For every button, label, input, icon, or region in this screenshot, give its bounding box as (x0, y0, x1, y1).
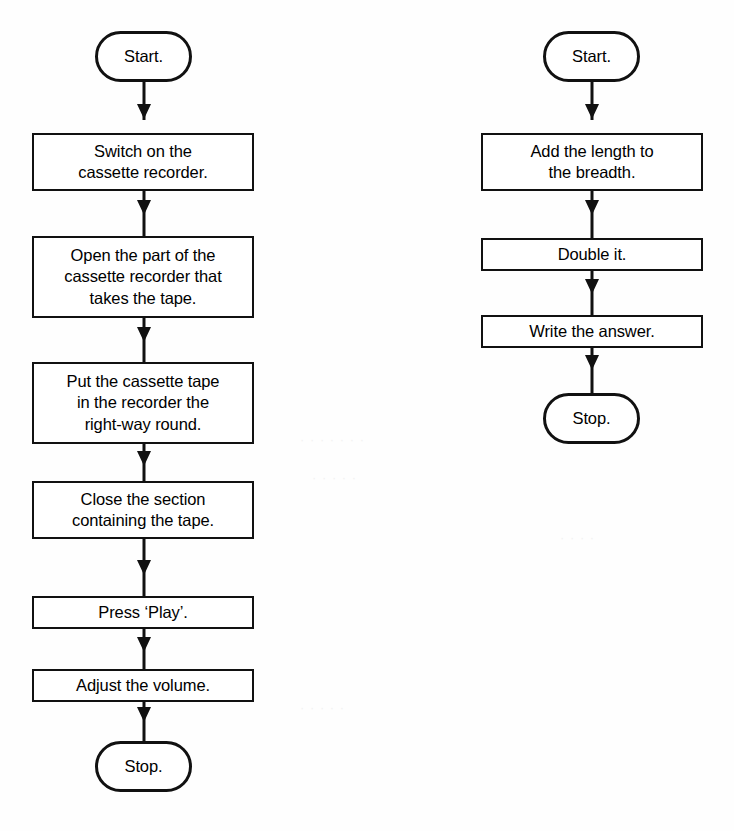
process-switch-on-recorder-label: Switch on the cassette recorder. (78, 141, 207, 183)
terminal-start-label: Start. (124, 47, 163, 66)
process-line: Open the part of the (64, 245, 221, 266)
arrowhead-down-icon (585, 104, 599, 119)
arrowhead-down-icon (137, 104, 151, 119)
process-close-tape-section-label: Close the section containing the tape. (72, 489, 214, 531)
arrowhead-down-icon (137, 637, 151, 652)
process-line: Add the length to (530, 141, 653, 162)
arrowhead-down-icon (137, 451, 151, 466)
process-double-it-label: Double it. (558, 244, 627, 265)
process-insert-cassette-tape[interactable]: Put the cassette tape in the recorder th… (32, 362, 254, 444)
process-line: the breadth. (530, 162, 653, 183)
process-line: right-way round. (67, 414, 220, 435)
process-line: in the recorder the (67, 392, 220, 413)
terminal-stop-label: Stop. (572, 409, 610, 428)
page-bleed-through: · · · · · (300, 700, 345, 715)
process-line: takes the tape. (64, 288, 221, 309)
arrowhead-down-icon (137, 560, 151, 575)
process-double-it[interactable]: Double it. (481, 238, 703, 271)
process-line: cassette recorder. (78, 162, 207, 183)
cassette-recorder-flowchart: Start. Switch on the cassette recorder. … (0, 0, 300, 831)
process-open-tape-compartment[interactable]: Open the part of the cassette recorder t… (32, 236, 254, 318)
process-line: Write the answer. (529, 321, 654, 342)
terminal-start[interactable]: Start. (95, 31, 192, 82)
process-adjust-volume-label: Adjust the volume. (76, 675, 210, 696)
process-line: containing the tape. (72, 510, 214, 531)
terminal-stop-label: Stop. (124, 757, 162, 776)
process-open-tape-compartment-label: Open the part of the cassette recorder t… (64, 245, 221, 308)
process-insert-cassette-tape-label: Put the cassette tape in the recorder th… (67, 371, 220, 434)
process-line: Double it. (558, 244, 627, 265)
arrowhead-down-icon (585, 355, 599, 370)
page-bleed-through: · · · · · · · (300, 432, 365, 447)
process-write-answer-label: Write the answer. (529, 321, 654, 342)
process-close-tape-section[interactable]: Close the section containing the tape. (32, 481, 254, 539)
terminal-stop[interactable]: Stop. (95, 741, 192, 792)
process-line: Switch on the (78, 141, 207, 162)
arrowhead-down-icon (585, 279, 599, 294)
connector-step-1-to-step-2 (590, 191, 593, 239)
terminal-stop[interactable]: Stop. (543, 393, 640, 444)
process-line: Close the section (72, 489, 214, 510)
page-bleed-through: · · · · · (312, 470, 357, 485)
page-canvas: · · · · · · · · · · · · · · · · · · · · … (0, 0, 734, 831)
process-add-length-to-breadth[interactable]: Add the length to the breadth. (481, 133, 703, 191)
process-write-answer[interactable]: Write the answer. (481, 315, 703, 348)
process-line: Adjust the volume. (76, 675, 210, 696)
process-line: Put the cassette tape (67, 371, 220, 392)
process-line: cassette recorder that (64, 266, 221, 287)
terminal-start-label: Start. (572, 47, 611, 66)
process-adjust-volume[interactable]: Adjust the volume. (32, 669, 254, 702)
perimeter-flowchart: Start. Add the length to the breadth. Do… (450, 0, 734, 831)
process-switch-on-recorder[interactable]: Switch on the cassette recorder. (32, 133, 254, 191)
arrowhead-down-icon (137, 327, 151, 342)
arrowhead-down-icon (585, 200, 599, 215)
process-press-play[interactable]: Press ‘Play’. (32, 596, 254, 629)
process-line: Press ‘Play’. (98, 602, 187, 623)
terminal-start[interactable]: Start. (543, 31, 640, 82)
arrowhead-down-icon (137, 200, 151, 215)
process-add-length-to-breadth-label: Add the length to the breadth. (530, 141, 653, 183)
process-press-play-label: Press ‘Play’. (98, 602, 187, 623)
arrowhead-down-icon (137, 707, 151, 722)
